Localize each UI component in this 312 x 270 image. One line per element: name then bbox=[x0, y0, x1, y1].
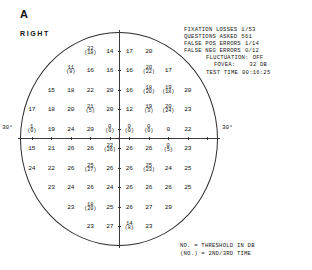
threshold-retest-value: (27) bbox=[84, 168, 96, 173]
threshold-point: 26 bbox=[126, 145, 133, 152]
threshold-point: 1(0) bbox=[27, 124, 36, 134]
threshold-point: 25(27) bbox=[84, 163, 96, 173]
threshold-point: 22 bbox=[184, 125, 191, 132]
threshold-point: 20 bbox=[184, 86, 191, 93]
panel-letter: A bbox=[20, 8, 28, 20]
axis-tick bbox=[188, 137, 189, 140]
threshold-point: 11(8) bbox=[66, 65, 75, 75]
threshold-point: 16 bbox=[126, 67, 133, 74]
threshold-point: 20 bbox=[67, 106, 74, 113]
axis-tick bbox=[118, 51, 121, 52]
threshold-point: 19(18) bbox=[162, 85, 174, 95]
threshold-point: 22 bbox=[87, 86, 94, 93]
false-neg-errors-value: 0/12 bbox=[245, 47, 259, 54]
axis-tick bbox=[51, 137, 52, 140]
threshold-retest-value: (8) bbox=[66, 70, 75, 75]
threshold-point: 0(0) bbox=[105, 124, 114, 134]
axis-tick bbox=[118, 226, 121, 227]
threshold-point: 26 bbox=[87, 184, 94, 191]
axis-tick bbox=[168, 137, 169, 140]
threshold-point: 24 bbox=[165, 164, 172, 171]
threshold-retest-value: (26) bbox=[104, 148, 116, 153]
threshold-point: 26 bbox=[67, 145, 74, 152]
threshold-retest-value: (8) bbox=[125, 226, 134, 231]
axis-label-left-degree: 30° bbox=[2, 124, 13, 131]
threshold-point: 23 bbox=[145, 223, 152, 230]
threshold-point: 0(0) bbox=[144, 124, 153, 134]
threshold-point: 16 bbox=[87, 67, 94, 74]
threshold-point: 16 bbox=[126, 86, 133, 93]
threshold-point: 24 bbox=[106, 184, 113, 191]
fluctuation-value: OFF bbox=[253, 54, 264, 61]
threshold-point: 12 bbox=[126, 106, 133, 113]
threshold-point: 26 bbox=[106, 164, 113, 171]
axis-tick bbox=[118, 109, 121, 110]
threshold-point: 21(5) bbox=[86, 104, 95, 114]
threshold-point: 20 bbox=[106, 106, 113, 113]
threshold-retest-value: (18) bbox=[162, 90, 174, 95]
threshold-point: 20(22) bbox=[143, 65, 155, 75]
threshold-retest-value: (20) bbox=[84, 207, 96, 212]
threshold-point: 23 bbox=[67, 203, 74, 210]
threshold-point: 26 bbox=[165, 184, 172, 191]
axis-tick bbox=[118, 187, 121, 188]
threshold-retest-value: (0) bbox=[105, 129, 114, 134]
threshold-point: 22(18) bbox=[84, 46, 96, 56]
axis-tick bbox=[71, 137, 72, 140]
threshold-retest-value: (0) bbox=[144, 129, 153, 134]
fixation-point-marker: + bbox=[117, 136, 120, 141]
threshold-point: 14 bbox=[106, 47, 113, 54]
axis-tick bbox=[118, 129, 121, 130]
threshold-point: 25(23) bbox=[143, 163, 155, 173]
threshold-retest-value: (22) bbox=[143, 70, 155, 75]
visual-field-printout: A RIGHT FIXATION LOSSES 1/53 QUESTIONS A… bbox=[0, 0, 312, 270]
threshold-point: 23 bbox=[184, 145, 191, 152]
threshold-point: 25 bbox=[184, 184, 191, 191]
threshold-point: 17 bbox=[126, 47, 133, 54]
threshold-point: 14(8) bbox=[125, 221, 134, 231]
threshold-point: 23 bbox=[48, 184, 55, 191]
visual-field-plot: 30° 30° + 22(18)14172011(8)16161620(22)1… bbox=[16, 26, 224, 258]
threshold-point: 18 bbox=[48, 106, 55, 113]
threshold-retest-value: (5) bbox=[86, 109, 95, 114]
fovea-value: 32 DB bbox=[249, 61, 267, 68]
threshold-point: 25 bbox=[184, 164, 191, 171]
threshold-point: 0(0) bbox=[125, 124, 134, 134]
threshold-point: 26 bbox=[126, 184, 133, 191]
threshold-point: 26 bbox=[145, 184, 152, 191]
threshold-point: 20 bbox=[145, 47, 152, 54]
threshold-retest-value: (0) bbox=[27, 129, 36, 134]
threshold-point: 27 bbox=[106, 223, 113, 230]
axis-tick bbox=[118, 90, 121, 91]
threshold-point: 22(26) bbox=[104, 143, 116, 153]
threshold-point: 23 bbox=[87, 223, 94, 230]
threshold-point: 20(24) bbox=[162, 104, 174, 114]
axis-tick bbox=[129, 137, 130, 140]
threshold-point: 17 bbox=[165, 67, 172, 74]
axis-tick bbox=[110, 137, 111, 140]
threshold-retest-value: (18) bbox=[84, 51, 96, 56]
threshold-point: 24 bbox=[67, 184, 74, 191]
threshold-point: 20 bbox=[106, 86, 113, 93]
threshold-retest-value: (23) bbox=[143, 168, 155, 173]
threshold-point: 18(20) bbox=[143, 85, 155, 95]
threshold-point: 23 bbox=[184, 106, 191, 113]
threshold-retest-value: (3) bbox=[144, 109, 153, 114]
threshold-point: 17 bbox=[28, 106, 35, 113]
threshold-point: 26 bbox=[126, 203, 133, 210]
threshold-point: 15 bbox=[48, 86, 55, 93]
axis-label-right-degree: 30° bbox=[222, 124, 233, 131]
false-pos-errors-value: 1/14 bbox=[245, 40, 259, 47]
threshold-point: 21 bbox=[48, 145, 55, 152]
threshold-point: 19 bbox=[48, 125, 55, 132]
threshold-retest-value: (5) bbox=[164, 148, 173, 153]
threshold-point: 26 bbox=[67, 164, 74, 171]
threshold-point: 22 bbox=[48, 164, 55, 171]
axis-tick bbox=[118, 207, 121, 208]
threshold-retest-value: (20) bbox=[143, 90, 155, 95]
threshold-point: 20 bbox=[87, 125, 94, 132]
test-time-value: 00:16:25 bbox=[242, 69, 270, 76]
fixation-losses-value: 1/53 bbox=[241, 26, 255, 33]
threshold-retest-value: (0) bbox=[125, 129, 134, 134]
axis-tick bbox=[118, 168, 121, 169]
